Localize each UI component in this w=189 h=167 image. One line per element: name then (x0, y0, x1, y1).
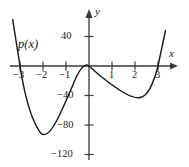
y-axis-label: y (95, 6, 100, 17)
x-tick-label-2: 2 (132, 70, 137, 81)
x-axis-label: x (169, 48, 174, 59)
y-tick-label--80: −80 (57, 120, 73, 131)
y-tick-label-40: 40 (61, 31, 72, 42)
x-tick-label--3: −3 (13, 70, 24, 81)
polynomial-graph-figure: −3 −2 −1 1 2 3 40 −40 −80 −120 x y p(x) (0, 0, 189, 167)
x-tick-label-1: 1 (109, 70, 114, 81)
y-axis (85, 9, 92, 160)
graph-canvas (0, 0, 189, 167)
x-tick-label--2: −2 (36, 70, 47, 81)
y-tick-label--120: −120 (51, 149, 73, 160)
curve-label-px: p(x) (18, 38, 38, 51)
y-tick-label--40: −40 (57, 90, 73, 101)
x-tick-label-3: 3 (155, 70, 160, 81)
x-tick-label--1: −1 (59, 70, 70, 81)
